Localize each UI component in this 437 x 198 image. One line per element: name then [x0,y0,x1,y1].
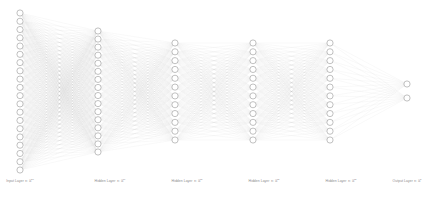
network-node[interactable] [327,58,333,64]
network-node[interactable] [17,126,23,132]
network-node[interactable] [327,75,333,81]
network-node[interactable] [327,66,333,72]
network-node[interactable] [17,150,23,156]
network-node[interactable] [95,76,101,82]
network-node[interactable] [327,102,333,108]
network-node[interactable] [95,117,101,123]
network-node[interactable] [95,125,101,131]
network-node[interactable] [327,93,333,99]
network-edge [330,69,407,98]
network-node[interactable] [95,52,101,58]
network-node[interactable] [17,117,23,123]
network-node[interactable] [95,133,101,139]
network-node[interactable] [172,49,178,55]
layer-label-exponent: 12 [277,178,280,181]
network-node[interactable] [95,149,101,155]
layer-label-input-layer: Input Layer ∈ ℝ20 [6,180,34,184]
network-edge [330,61,407,84]
network-node[interactable] [17,109,23,115]
network-node[interactable] [250,40,256,46]
network-node[interactable] [172,75,178,81]
network-edge [98,140,175,152]
network-node[interactable] [327,40,333,46]
network-node[interactable] [17,26,23,32]
layer-label-text: Hidden Layer [172,179,193,183]
network-node[interactable] [172,110,178,116]
network-node[interactable] [172,93,178,99]
network-edge [330,84,407,140]
edges-group [20,13,407,170]
network-node[interactable] [172,137,178,143]
network-node[interactable] [95,141,101,147]
network-node[interactable] [172,119,178,125]
network-node[interactable] [250,58,256,64]
network-node[interactable] [17,84,23,90]
network-edge [20,21,98,31]
network-node[interactable] [17,76,23,82]
network-node[interactable] [250,110,256,116]
network-node[interactable] [17,59,23,65]
network-node[interactable] [17,10,23,16]
network-node[interactable] [250,49,256,55]
network-node[interactable] [17,93,23,99]
network-node[interactable] [250,137,256,143]
network-edge [330,98,407,131]
network-node[interactable] [327,119,333,125]
network-node[interactable] [404,81,410,87]
network-node[interactable] [250,102,256,108]
network-node[interactable] [250,84,256,90]
network-node[interactable] [327,137,333,143]
network-node[interactable] [17,134,23,140]
network-node[interactable] [327,128,333,134]
network-node[interactable] [404,95,410,101]
network-edge [330,84,407,96]
network-edge [330,43,407,84]
network-node[interactable] [17,142,23,148]
network-edge [20,144,98,170]
network-edge [330,98,407,105]
network-node[interactable] [327,84,333,90]
network-node[interactable] [17,35,23,41]
layer-label-text: Output Layer [393,179,413,183]
layer-label-text: Hidden Layer [326,179,347,183]
network-edge [20,152,98,170]
network-node[interactable] [17,159,23,165]
network-node[interactable] [17,167,23,173]
network-node[interactable] [95,92,101,98]
network-edge [330,84,407,131]
network-node[interactable] [95,44,101,50]
layer-label-output-layer: Output Layer ∈ ℝ2 [393,180,422,184]
network-node[interactable] [95,68,101,74]
network-node[interactable] [95,60,101,66]
network-node[interactable] [95,84,101,90]
network-node[interactable] [172,84,178,90]
network-node[interactable] [17,18,23,24]
network-node[interactable] [172,128,178,134]
network-node[interactable] [17,51,23,57]
network-node[interactable] [172,58,178,64]
network-node[interactable] [327,49,333,55]
network-edge [330,84,407,122]
network-node[interactable] [250,66,256,72]
network-node[interactable] [172,40,178,46]
layer-label-text: Input Layer [6,179,24,183]
network-node[interactable] [17,43,23,49]
network-node[interactable] [95,36,101,42]
network-node[interactable] [327,110,333,116]
network-node[interactable] [95,109,101,115]
layer-label-exponent: 12 [354,178,357,181]
network-edge [98,31,175,87]
network-node[interactable] [95,28,101,34]
layer-label-hidden-layer-1: Hidden Layer ∈ ℝ16 [95,180,126,184]
network-node[interactable] [17,68,23,74]
network-node[interactable] [17,101,23,107]
network-node[interactable] [250,119,256,125]
network-node[interactable] [172,102,178,108]
network-node[interactable] [95,101,101,107]
network-node[interactable] [250,93,256,99]
network-node[interactable] [250,128,256,134]
network-edge [330,98,407,114]
network-node[interactable] [172,66,178,72]
layer-label-text: Hidden Layer [95,179,116,183]
network-node[interactable] [250,75,256,81]
